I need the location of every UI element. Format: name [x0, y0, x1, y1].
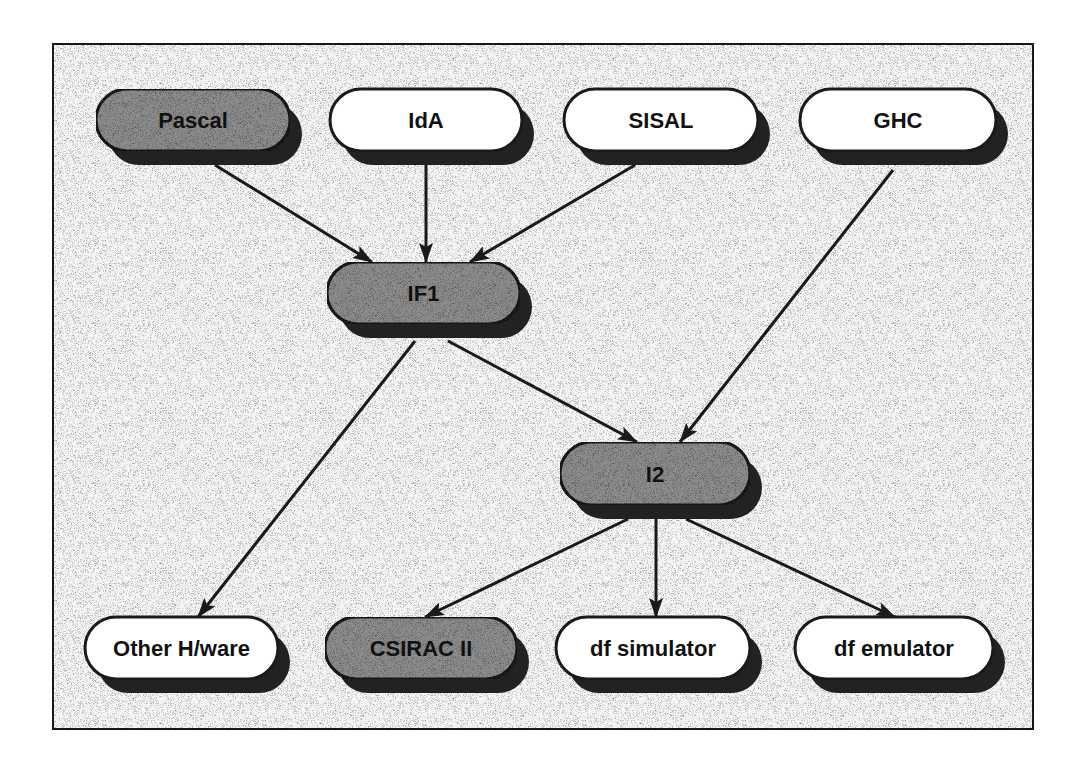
node-label: IdA [408, 108, 444, 133]
node-label: I2 [646, 462, 664, 487]
node-label: df simulator [590, 636, 716, 661]
node-label: SISAL [629, 108, 694, 133]
node-label: GHC [874, 108, 923, 133]
node-pascal[interactable]: Pascal [96, 89, 302, 165]
node-i2[interactable]: I2 [560, 442, 762, 519]
node-label: df emulator [834, 636, 954, 661]
node-label: Pascal [158, 108, 228, 133]
node-ida[interactable]: IdA [330, 89, 534, 165]
node-label: Other H/ware [113, 636, 250, 661]
diagram-canvas: PascalIdASISALGHCIF1I2Other H/wareCSIRAC… [0, 0, 1081, 776]
node-df-emu[interactable]: df emulator [795, 617, 1005, 693]
node-sisal[interactable]: SISAL [564, 89, 770, 165]
node-label: CSIRAC II [370, 636, 473, 661]
node-other-hw[interactable]: Other H/ware [85, 617, 290, 693]
node-label: IF1 [408, 281, 440, 306]
node-if1[interactable]: IF1 [327, 262, 532, 338]
node-csirac[interactable]: CSIRAC II [325, 617, 529, 693]
node-df-sim[interactable]: df simulator [556, 617, 762, 693]
node-ghc[interactable]: GHC [800, 89, 1008, 165]
